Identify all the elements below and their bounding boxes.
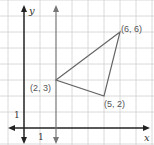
x-axis-label: x — [144, 132, 150, 143]
x-axis — [8, 125, 150, 131]
grid — [0, 0, 154, 145]
arrow-left-icon — [8, 125, 15, 131]
y-axis-label: y — [28, 5, 35, 16]
point-label-6-6: (6, 6) — [121, 24, 142, 34]
x-tick-label: 1 — [38, 132, 44, 142]
y-tick-label: 1 — [14, 110, 20, 120]
arrow-up-icon — [21, 5, 27, 12]
coordinate-plane: y x 1 1 (2, 3) (6, 6) (5, 2) — [0, 0, 154, 145]
vertical-line-x2 — [53, 5, 59, 144]
arrow-down-icon — [21, 137, 27, 144]
point-label-2-3: (2, 3) — [30, 83, 51, 93]
y-axis — [21, 5, 27, 144]
point-label-5-2: (5, 2) — [104, 99, 125, 109]
arrow-right-icon — [143, 125, 150, 131]
